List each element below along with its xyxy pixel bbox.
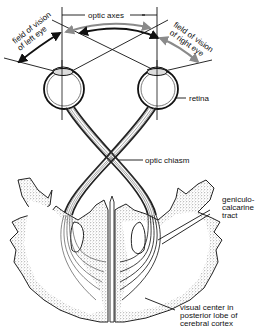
left-hemisphere	[10, 178, 108, 322]
longitudinal-fissure	[110, 196, 114, 322]
geniculo-label-3: tract	[222, 211, 238, 220]
retina-label: retina	[189, 94, 210, 103]
optic-chiasm-label: optic chiasm	[145, 156, 190, 165]
field-label-right: field of vision of right eye	[168, 20, 215, 58]
visual-pathway-diagram: optic axes field of vision of left eye f…	[0, 0, 263, 327]
right-hemisphere	[115, 180, 222, 322]
optic-axes-label: optic axes	[88, 11, 124, 20]
right-eye	[138, 60, 178, 109]
optic-nerves	[64, 107, 156, 215]
field-label-left: field of vision of left eye	[11, 10, 53, 53]
visual-center-label-3: cerebral cortex	[180, 319, 233, 327]
